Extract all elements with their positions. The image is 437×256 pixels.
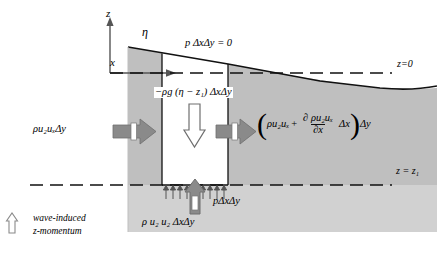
partial-derivative-fraction: ∂ ρu₂uₓ ∂x [301,113,335,135]
lower-boundary-label: z = z₁ [396,166,419,176]
legend-line-1: wave-induced [33,212,86,225]
legend: wave-induced z-momentum [8,212,86,238]
still-water-level-label: z=0 [397,59,413,69]
legend-text: wave-induced z-momentum [33,212,86,238]
free-surface-label: η [142,26,148,38]
flux-out-tail: Δy [360,119,371,130]
water-region-upper [128,47,162,185]
fraction-denominator: ∂x [311,124,325,136]
open-paren: ( [257,112,267,136]
flux-out-delta-x: Δx [339,119,350,130]
z-axis-label: z [106,8,110,19]
close-paren: ) [350,112,360,136]
figure-canvas: z x η z=0 z = z₁ p ΔxΔy = 0 −ρg (η − z₁)… [0,0,437,256]
x-axis-label: x [110,57,115,68]
fraction-numerator: ∂ ρu₂uₓ [301,113,335,124]
momentum-flux-out-label: ( ρu₂uₓ + ∂ ρu₂uₓ ∂x Δx ) Δy [257,112,371,136]
legend-line-2: z-momentum [33,225,86,238]
momentum-flux-in-label: ρu₂uₓΔy [33,124,66,135]
flux-out-lead: ρu₂uₓ [267,119,289,130]
flux-out-plus: + [291,119,297,130]
pressure-top-label: p ΔxΔy = 0 [185,38,232,49]
z-momentum-flux-label: ρ u₂ u₂ ΔxΔy [142,217,194,228]
pressure-bottom-label: pΔxΔy [213,196,240,207]
gravity-term-label: −ρg (η − z₁) ΔxΔy [154,87,233,98]
